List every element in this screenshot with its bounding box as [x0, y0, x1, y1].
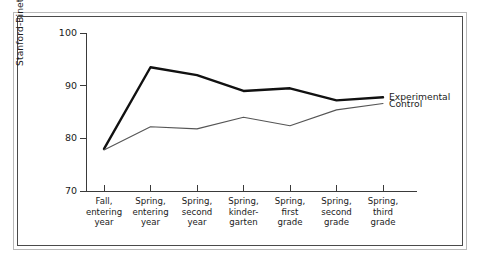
series-line-experimental: [104, 67, 383, 149]
series-line-control: [104, 104, 383, 150]
chart-lines: [0, 0, 480, 263]
legend-label-control: Control: [389, 98, 422, 109]
figure-container: 100 90 80 70 Stanford-Binet I.Q. score F…: [0, 0, 480, 263]
